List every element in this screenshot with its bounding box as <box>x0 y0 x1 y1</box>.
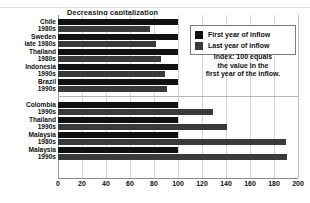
bar-first-year <box>58 102 178 108</box>
bar-row <box>58 79 298 93</box>
legend: First year of inflow Last year of inflow <box>190 25 296 55</box>
legend-swatch-first-year <box>195 31 203 39</box>
category-label-name: Indonesia <box>0 63 56 70</box>
x-tick-label: 20 <box>78 180 86 187</box>
category-label-period: 1990s <box>0 123 56 130</box>
x-tick-label: 100 <box>172 180 184 187</box>
bar-last-year <box>58 124 227 130</box>
bar-first-year <box>58 79 178 85</box>
gridline <box>298 15 299 178</box>
bar-last-year <box>58 56 161 62</box>
category-label-period: 1980s <box>0 138 56 145</box>
category-label: Colombia1990s <box>0 101 56 115</box>
category-label: Swedenlate 1980s <box>0 33 56 47</box>
category-label-name: Thailand <box>0 48 56 55</box>
bar-last-year <box>58 41 156 47</box>
x-tick-label: 140 <box>220 180 232 187</box>
category-label-name: Colombia <box>0 101 56 108</box>
bar-first-year <box>58 34 178 40</box>
category-label: Chile1980s <box>0 18 56 32</box>
category-label: Malaysia1990s <box>0 146 56 160</box>
x-tick-label: 200 <box>292 180 304 187</box>
x-tick-label: 180 <box>268 180 280 187</box>
chart-container: Decreasing capitalization Increasing cap… <box>0 0 310 203</box>
bar-last-year <box>58 86 167 92</box>
category-label: Thailand1990s <box>0 116 56 130</box>
category-label-name: Brazil <box>0 78 56 85</box>
x-tick-label: 0 <box>56 180 60 187</box>
bar-last-year <box>58 139 286 145</box>
bar-row <box>58 102 298 116</box>
category-label-period: late 1980s <box>0 40 56 47</box>
category-label-period: 1980s <box>0 25 56 32</box>
bar-first-year <box>58 49 178 55</box>
legend-note-line-2: the value in the <box>186 62 300 71</box>
category-label-period: 1990s <box>0 108 56 115</box>
bar-row <box>58 147 298 161</box>
category-label-period: 1990s <box>0 153 56 160</box>
legend-item-last-year: Last year of inflow <box>195 40 291 51</box>
bar-last-year <box>58 154 287 160</box>
x-tick-label: 80 <box>150 180 158 187</box>
legend-swatch-last-year <box>195 42 203 50</box>
category-label-name: Malaysia <box>0 146 56 153</box>
bar-first-year <box>58 19 178 25</box>
category-label-name: Sweden <box>0 33 56 40</box>
legend-note: Index: 100 equals the value in the first… <box>186 53 300 79</box>
category-label-period: 1990s <box>0 85 56 92</box>
x-axis-line <box>58 178 298 179</box>
legend-label-last-year: Last year of inflow <box>208 42 269 49</box>
category-label: Brazil1990s <box>0 78 56 92</box>
legend-label-first-year: First year of inflow <box>208 31 270 38</box>
legend-item-first-year: First year of inflow <box>195 29 291 40</box>
x-tick-label: 160 <box>244 180 256 187</box>
bar-last-year <box>58 109 213 115</box>
category-label-period: 1990s <box>0 70 56 77</box>
legend-note-line-3: first year of the inflow. <box>186 70 300 79</box>
bar-last-year <box>58 71 165 77</box>
category-label: Indonesia1990s <box>0 63 56 77</box>
x-tick-label: 40 <box>102 180 110 187</box>
category-label: Malaysia1980s <box>0 131 56 145</box>
x-tick-label: 120 <box>196 180 208 187</box>
category-label-period: 1980s <box>0 55 56 62</box>
x-tick-label: 60 <box>126 180 134 187</box>
bar-first-year <box>58 117 178 123</box>
legend-note-line-1: Index: 100 equals <box>186 53 300 62</box>
category-label: Thailand1980s <box>0 48 56 62</box>
bar-first-year <box>58 64 178 70</box>
bar-first-year <box>58 132 178 138</box>
category-label-name: Chile <box>0 18 56 25</box>
x-axis-ticks: 020406080100120140160180200 <box>58 180 298 194</box>
bar-row <box>58 132 298 146</box>
category-label-name: Malaysia <box>0 131 56 138</box>
category-axis-labels: Chile1980sSwedenlate 1980sThailand1980sI… <box>0 15 56 178</box>
bar-last-year <box>58 26 150 32</box>
bar-row <box>58 117 298 131</box>
bar-first-year <box>58 147 178 153</box>
category-label-name: Thailand <box>0 116 56 123</box>
